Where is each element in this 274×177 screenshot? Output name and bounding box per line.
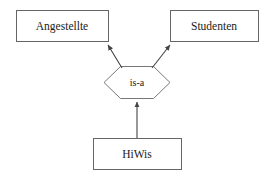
entity-box-angestellte[interactable] — [17, 11, 109, 42]
entity-box-hiwis[interactable] — [94, 139, 182, 170]
edge-isa-to-angestellte — [108, 45, 122, 68]
entity-box-studenten[interactable] — [171, 11, 259, 42]
diagram-vector-layer — [0, 0, 274, 177]
relationship-hexagon-is-a[interactable] — [104, 67, 170, 99]
edge-isa-to-studenten — [152, 45, 170, 68]
er-diagram-canvas: Angestellte Studenten HiWis is-a — [0, 0, 274, 177]
